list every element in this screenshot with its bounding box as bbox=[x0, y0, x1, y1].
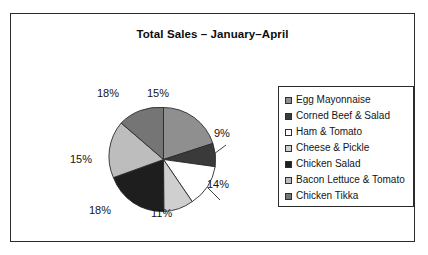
legend-item-label: Chicken Tikka bbox=[296, 191, 358, 201]
slice-label-14: 14% bbox=[207, 178, 229, 190]
legend-swatch-icon bbox=[285, 193, 292, 200]
legend-swatch-icon bbox=[285, 177, 292, 184]
slice-label-18-top: 18% bbox=[97, 87, 119, 99]
legend-item-bacon-lettuce-tomato[interactable]: Bacon Lettuce & Tomato bbox=[285, 172, 409, 188]
slice-label-11: 11% bbox=[151, 207, 172, 219]
legend-swatch-icon bbox=[285, 161, 292, 168]
legend-swatch-icon bbox=[285, 129, 292, 136]
legend-item-label: Cheese & Pickle bbox=[296, 143, 369, 153]
legend-swatch-icon bbox=[285, 97, 292, 104]
legend-item-chicken-tikka[interactable]: Chicken Tikka bbox=[285, 188, 409, 204]
legend-item-label: Ham & Tomato bbox=[296, 127, 362, 137]
legend-item-label: Chicken Salad bbox=[296, 159, 360, 169]
legend-item-egg-mayonnaise[interactable]: Egg Mayonnaise bbox=[285, 92, 409, 108]
chart-legend: Egg Mayonnaise Corned Beef & Salad Ham &… bbox=[278, 86, 414, 207]
legend-item-ham-tomato[interactable]: Ham & Tomato bbox=[285, 124, 409, 140]
slice-label-15-left: 15% bbox=[70, 153, 92, 165]
legend-item-cheese-pickle[interactable]: Cheese & Pickle bbox=[285, 140, 409, 156]
slice-label-9: 9% bbox=[214, 127, 230, 139]
legend-swatch-icon bbox=[285, 145, 292, 152]
pie-slices bbox=[109, 107, 216, 211]
chart-frame: Total Sales – January–April 15% 9% 14% 1… bbox=[10, 13, 415, 242]
slice-label-18-bottom: 18% bbox=[89, 204, 111, 216]
slice-label-15-top: 15% bbox=[147, 87, 169, 99]
legend-item-label: Bacon Lettuce & Tomato bbox=[296, 175, 405, 185]
plot-area: 15% 9% 14% 11% 18% 15% 18% Egg Mayonnais… bbox=[11, 14, 414, 241]
leader-line-9 bbox=[215, 145, 226, 154]
legend-item-label: Corned Beef & Salad bbox=[296, 111, 390, 121]
legend-item-corned-beef-salad[interactable]: Corned Beef & Salad bbox=[285, 108, 409, 124]
legend-item-chicken-salad[interactable]: Chicken Salad bbox=[285, 156, 409, 172]
legend-swatch-icon bbox=[285, 113, 292, 120]
legend-item-label: Egg Mayonnaise bbox=[296, 95, 371, 105]
